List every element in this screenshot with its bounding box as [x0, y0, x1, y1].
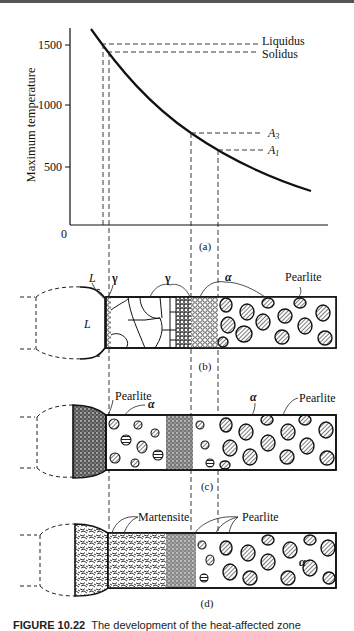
chart-panel-a: 1500 1000 500 0 Maximum temperature Liqu… [24, 28, 328, 253]
panel-d-microstructure: Martensite Pearlite α (d) [20, 510, 336, 610]
panel-a-label: (a) [199, 240, 212, 253]
pearlite-label-c-2: Pearlite [299, 391, 336, 405]
y-axis-label: Maximum temperature [24, 67, 38, 182]
alpha-label-b: α [225, 270, 232, 284]
pearlite-label-c-1: Pearlite [115, 389, 152, 403]
solidus-label: Solidus [262, 47, 298, 61]
panel-c-label: (c) [201, 480, 214, 493]
liquidus-label: Liquidus [262, 34, 305, 48]
martensite-label: Martensite [138, 510, 189, 524]
origin-label: 0 [61, 227, 67, 241]
gamma-label-1: γ [111, 271, 118, 285]
a3-label: A3 [267, 126, 279, 141]
ytick-500: 500 [44, 160, 62, 174]
alpha-label-c-1: α [148, 397, 155, 411]
liquid-pool-label: L [83, 317, 91, 331]
panel-c-microstructure: Pearlite α α Pearlite (c) [20, 389, 336, 493]
pearlite-label-b: Pearlite [285, 270, 322, 284]
alpha-label-c-2: α [250, 390, 257, 404]
panel-b-microstructure: L L γ γ α Pearlite (b) [20, 270, 336, 373]
ytick-1500: 1500 [38, 38, 62, 52]
panel-d-label: (d) [201, 597, 214, 610]
liquid-top-label: L [88, 271, 96, 285]
a1-label: A1 [267, 143, 279, 158]
caption-number: FIGURE 10.22 [13, 619, 85, 631]
alpha-label-d: α [299, 555, 306, 569]
panel-b-label: (b) [199, 360, 212, 373]
figure-caption: FIGURE 10.22 The development of the heat… [13, 619, 301, 631]
ytick-1000: 1000 [38, 98, 62, 112]
gamma-label-2: γ [164, 271, 171, 285]
pearlite-label-d: Pearlite [242, 510, 279, 524]
caption-text: The development of the heat-affected zon… [91, 619, 301, 631]
